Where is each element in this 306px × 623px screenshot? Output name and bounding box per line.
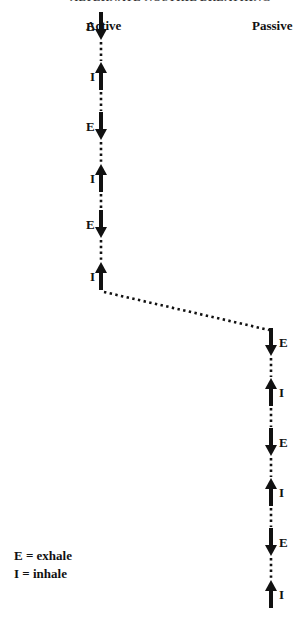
arrow-down-icon xyxy=(265,428,277,456)
arrow-down-icon xyxy=(95,112,107,140)
passive-breath-label-e: E xyxy=(279,436,288,450)
arrow-up-icon xyxy=(95,164,107,192)
passive-breath-label-e: E xyxy=(279,336,288,350)
passive-breath-label-i: I xyxy=(279,588,284,602)
arrow-down-icon xyxy=(95,210,107,238)
passive-breath-label-i: I xyxy=(279,386,284,400)
arrow-up-icon xyxy=(95,262,107,290)
active-breath-label-i: I xyxy=(90,270,95,284)
arrow-up-icon xyxy=(265,378,277,406)
passive-breath-label-e: E xyxy=(279,536,288,550)
arrow-up-icon xyxy=(265,580,277,608)
active-breath-label-i: I xyxy=(90,70,95,84)
passive-breath-label-i: I xyxy=(279,486,284,500)
active-breath-label-i: I xyxy=(90,172,95,186)
arrow-up-icon xyxy=(265,478,277,506)
arrow-down-icon xyxy=(265,328,277,356)
arrow-down-icon xyxy=(265,528,277,556)
breathing-diagram xyxy=(0,0,306,623)
active-breath-label-e: E xyxy=(86,20,95,34)
arrow-down-icon xyxy=(95,12,107,40)
legend-exhale: E = exhale xyxy=(14,548,72,564)
active-breath-label-e: E xyxy=(86,218,95,232)
arrow-up-icon xyxy=(95,62,107,90)
legend-inhale: I = inhale xyxy=(14,566,67,582)
active-breath-label-e: E xyxy=(86,120,95,134)
